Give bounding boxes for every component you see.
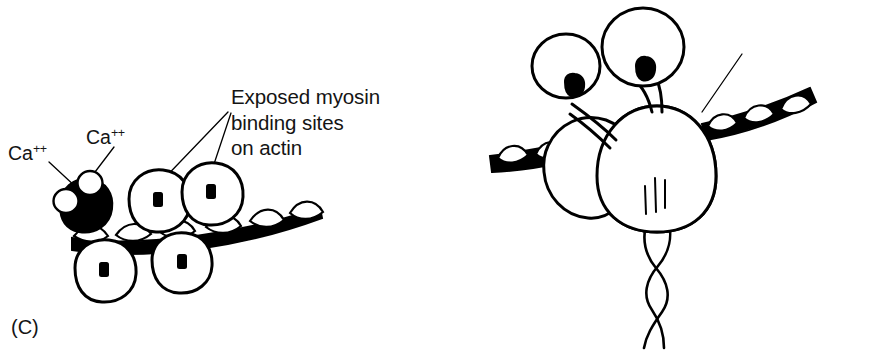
callout-line: on actin (231, 136, 302, 159)
muscle-contraction-figure: Ca++ Ca++ Exposed myosin binding sites o… (0, 0, 879, 354)
myosin-head-attachment-point (636, 57, 655, 81)
leader-line-calcium-right (95, 147, 114, 172)
callout-line: Exposed myosin (231, 85, 380, 108)
panel-d-drawing (440, 0, 879, 354)
panel-label-c: (C) (11, 315, 39, 339)
calcium-ion-right (78, 171, 103, 195)
panel-d: Myosin fits into binding sites on actin … (440, 0, 879, 354)
myosin-head-attachment-point (565, 74, 584, 97)
myosin-binding-site-marker (153, 192, 163, 207)
leader-line-myosin-binding (702, 54, 742, 112)
myosin-head-right (602, 8, 684, 86)
calcium-label-left: Ca++ (8, 142, 47, 164)
myosin-binding-site-marker (177, 254, 187, 269)
myosin-binding-site-marker (99, 262, 109, 277)
calcium-ion-left (54, 189, 79, 213)
actin-filament-right (702, 88, 816, 140)
callout-exposed-binding-sites: Exposed myosin binding sites on actin (231, 84, 380, 161)
myosin-binding-site-marker (206, 184, 216, 199)
myosin-head-left (532, 34, 600, 98)
panel-c-drawing (0, 0, 440, 354)
myosin-body-outline (597, 106, 716, 232)
calcium-label-right: Ca++ (86, 126, 125, 148)
panel-c: Ca++ Ca++ Exposed myosin binding sites o… (0, 0, 440, 354)
callout-line: binding sites (231, 111, 344, 134)
myosin-tail-coil (644, 214, 670, 348)
